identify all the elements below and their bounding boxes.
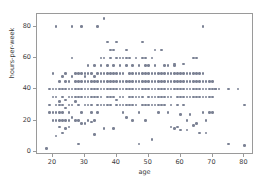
scatter-point bbox=[182, 63, 185, 66]
scatter-point bbox=[179, 129, 182, 132]
scatter-point bbox=[100, 72, 103, 75]
scatter-point bbox=[87, 88, 90, 91]
x-tick-label: 60 bbox=[175, 158, 183, 166]
scatter-point bbox=[71, 116, 74, 119]
scatter-point bbox=[52, 111, 55, 114]
scatter-point bbox=[80, 25, 83, 28]
scatter-point bbox=[125, 49, 128, 52]
scatter-point bbox=[147, 88, 150, 91]
scatter-point bbox=[135, 80, 138, 83]
scatter-point bbox=[141, 72, 144, 75]
scatter-point bbox=[163, 80, 166, 83]
scatter-point bbox=[122, 96, 125, 99]
scatter-point bbox=[144, 57, 147, 60]
scatter-point bbox=[167, 80, 170, 83]
scatter-point bbox=[119, 104, 122, 107]
y-tick-mark bbox=[33, 57, 36, 58]
scatter-point bbox=[61, 104, 64, 107]
scatter-point bbox=[84, 88, 87, 91]
scatter-point bbox=[195, 88, 198, 91]
scatter-point bbox=[84, 104, 87, 107]
scatter-point bbox=[128, 57, 131, 60]
scatter-point bbox=[115, 88, 118, 91]
scatter-point bbox=[157, 88, 160, 91]
scatter-point bbox=[128, 96, 131, 99]
scatter-point bbox=[74, 96, 77, 99]
scatter-point bbox=[151, 72, 154, 75]
scatter-point bbox=[167, 64, 170, 67]
scatter-point bbox=[122, 111, 125, 114]
scatter-point bbox=[93, 119, 96, 122]
scatter-point bbox=[154, 80, 157, 83]
scatter-point bbox=[112, 64, 115, 67]
scatter-point bbox=[103, 17, 106, 20]
scatter-point bbox=[112, 49, 115, 52]
scatter-point bbox=[80, 122, 83, 125]
scatter-point bbox=[100, 57, 103, 60]
scatter-point bbox=[71, 96, 74, 99]
scatter-point bbox=[170, 80, 173, 83]
x-tick-mark bbox=[52, 154, 53, 157]
scatter-point bbox=[182, 80, 185, 83]
scatter-point bbox=[167, 72, 170, 75]
scatter-point bbox=[71, 57, 74, 60]
scatter-point bbox=[186, 119, 189, 122]
scatter-point bbox=[195, 72, 198, 75]
scatter-point bbox=[195, 57, 198, 60]
y-tick-mark bbox=[33, 120, 36, 121]
scatter-point bbox=[87, 96, 90, 99]
scatter-point bbox=[182, 104, 185, 107]
scatter-point bbox=[68, 126, 71, 129]
scatter-point bbox=[163, 64, 166, 67]
scatter-point bbox=[61, 96, 64, 99]
scatter-point bbox=[64, 88, 67, 91]
scatter-point bbox=[160, 49, 163, 52]
scatter-point bbox=[68, 104, 71, 107]
y-tick-label: 40 bbox=[23, 84, 31, 92]
scatter-point bbox=[214, 88, 217, 91]
scatter-point bbox=[128, 88, 131, 91]
scatter-point bbox=[100, 104, 103, 107]
scatter-point bbox=[198, 72, 201, 75]
scatter-point bbox=[74, 72, 77, 75]
scatter-point bbox=[154, 64, 157, 67]
scatter-point bbox=[109, 104, 112, 107]
x-tick-mark bbox=[180, 154, 181, 157]
scatter-point bbox=[71, 25, 74, 28]
scatter-point bbox=[119, 64, 122, 67]
scatter-point bbox=[147, 80, 150, 83]
scatter-point bbox=[167, 88, 170, 91]
scatter-point bbox=[151, 57, 154, 60]
y-tick-mark bbox=[33, 151, 36, 152]
scatter-point bbox=[141, 41, 144, 44]
scatter-point bbox=[227, 143, 230, 146]
scatter-point bbox=[55, 96, 58, 99]
scatter-point bbox=[58, 80, 61, 83]
scatter-point bbox=[64, 127, 67, 130]
scatter-point bbox=[52, 72, 55, 75]
y-axis-label: hours-per-week bbox=[8, 18, 16, 88]
scatter-point bbox=[80, 80, 83, 83]
scatter-point bbox=[186, 88, 189, 91]
scatter-point bbox=[96, 72, 99, 75]
scatter-point bbox=[135, 88, 138, 91]
scatter-point bbox=[64, 80, 67, 83]
scatter-point bbox=[195, 96, 198, 99]
scatter-point bbox=[119, 88, 122, 91]
scatter-point bbox=[103, 88, 106, 91]
scatter-point bbox=[186, 129, 189, 132]
scatter-point bbox=[157, 72, 160, 75]
scatter-point bbox=[147, 104, 150, 107]
scatter-point bbox=[119, 72, 122, 75]
scatter-point bbox=[170, 96, 173, 99]
scatter-point bbox=[125, 116, 128, 119]
scatter-point bbox=[84, 96, 87, 99]
scatter-point bbox=[61, 88, 64, 91]
scatter-point bbox=[243, 104, 246, 107]
scatter-plot-figure: 20304050607080 020406080 age hours-per-w… bbox=[0, 0, 269, 192]
x-tick-label: 40 bbox=[112, 158, 120, 166]
scatter-point bbox=[112, 96, 115, 99]
scatter-point bbox=[58, 100, 61, 103]
scatter-point bbox=[170, 88, 173, 91]
x-tick-mark bbox=[243, 154, 244, 157]
